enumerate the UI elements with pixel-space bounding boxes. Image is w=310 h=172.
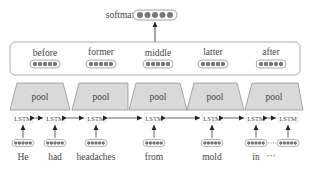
lstm-cell-7: LSTM [278, 113, 298, 123]
svg-text:LSTM: LSTM [247, 115, 265, 122]
svg-text:pool: pool [266, 92, 283, 102]
token: headaches [76, 152, 115, 162]
pool-1: pool [10, 83, 70, 110]
svg-text:pool: pool [93, 92, 110, 102]
token: had [48, 152, 62, 162]
svg-text:LSTM: LSTM [145, 115, 163, 122]
svg-text:LSTM: LSTM [203, 115, 221, 122]
token-ellipsis: ··· [266, 151, 276, 161]
lstm-cell-4: LSTM [144, 113, 164, 123]
embedding-vector [12, 140, 34, 147]
token-row: He had headaches from mold in ··· [17, 151, 275, 162]
token: He [17, 152, 28, 162]
softmax-label: softmax [106, 10, 137, 20]
token: mold [202, 152, 222, 162]
segment-label: after [262, 47, 280, 57]
softmax-vector [133, 10, 177, 20]
lstm-cell-5: LSTM [202, 113, 222, 123]
svg-text:pool: pool [32, 92, 49, 102]
token: from [145, 152, 164, 162]
lstm-cell-2: LSTM [45, 113, 65, 123]
lstm-cell-6: LSTM [246, 113, 266, 123]
segment-representation-box [10, 42, 300, 75]
embedding-vector [245, 140, 267, 147]
svg-text:LSTM: LSTM [87, 115, 105, 122]
lstm-cell-3: LSTM [86, 113, 106, 123]
pool-5: pool [245, 83, 303, 110]
pool-2: pool [72, 83, 128, 110]
svg-text:pool: pool [207, 92, 224, 102]
pool-3: pool [129, 83, 187, 110]
embedding-vector [277, 140, 299, 147]
segment-label: former [88, 47, 115, 57]
pool-layer: pool pool pool pool pool [10, 83, 303, 110]
svg-text:LSTM: LSTM [46, 115, 64, 122]
embedding-vector [44, 140, 66, 147]
token: in [252, 152, 260, 162]
svg-text:LSTM: LSTM [14, 115, 32, 122]
embedding-vector [85, 140, 107, 147]
architecture-diagram: softmax before former middle latter afte… [0, 0, 310, 172]
segment-label: before [33, 48, 57, 58]
pool-4: pool [187, 83, 244, 110]
lstm-cell-1: LSTM [13, 113, 33, 123]
embedding-layer [12, 140, 299, 147]
segment-label: latter [203, 47, 223, 57]
embedding-vector [143, 140, 165, 147]
input-arrows [23, 125, 288, 138]
svg-text:LSTM: LSTM [279, 115, 297, 122]
lstm-layer: LSTM LSTM LSTM LSTM LSTM LSTM LSTM [13, 113, 298, 123]
softmax-layer: softmax [106, 10, 177, 42]
segment-label: middle [145, 48, 171, 58]
embedding-vector [201, 140, 223, 147]
svg-text:pool: pool [150, 92, 167, 102]
